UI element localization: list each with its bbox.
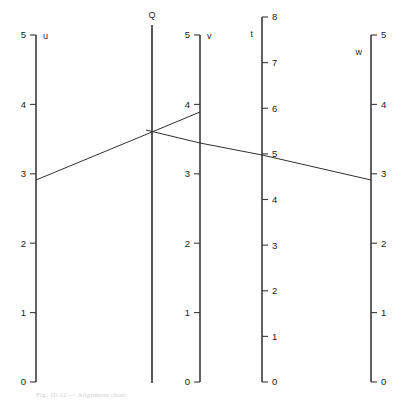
axis-u: 543210u xyxy=(21,29,48,387)
axis-name-u: u xyxy=(43,31,48,41)
axes-group: 543210uQ543210v876543210t543210w xyxy=(21,10,387,387)
nomogram-canvas: 543210uQ543210v876543210t543210w xyxy=(0,0,407,405)
isopleth-group xyxy=(36,112,371,180)
tick-label-t-1: 1 xyxy=(272,331,277,342)
figure-caption: Fig. 10.12 — Alignment chart xyxy=(36,391,126,399)
tick-label-u-4: 4 xyxy=(21,99,26,110)
axis-name-Q: Q xyxy=(148,10,155,20)
tick-label-u-3: 3 xyxy=(21,168,26,179)
axis-name-v: v xyxy=(207,31,212,41)
axis-t: 876543210t xyxy=(250,11,277,387)
tick-label-v-3: 3 xyxy=(185,168,190,179)
tick-label-u-1: 1 xyxy=(21,307,26,318)
axis-v: 543210v xyxy=(185,29,212,387)
isopleth-u-Q-v xyxy=(36,112,200,180)
tick-label-w-0: 0 xyxy=(381,376,386,387)
tick-label-t-4: 4 xyxy=(272,194,277,205)
tick-label-t-2: 2 xyxy=(272,285,277,296)
tick-label-w-4: 4 xyxy=(381,99,386,110)
tick-label-t-7: 7 xyxy=(272,57,277,68)
tick-label-u-0: 0 xyxy=(21,376,26,387)
tick-label-v-4: 4 xyxy=(185,99,190,110)
tick-label-v-0: 0 xyxy=(185,376,190,387)
axis-name-w: w xyxy=(355,47,363,57)
tick-label-u-5: 5 xyxy=(21,29,26,40)
tick-label-w-1: 1 xyxy=(381,307,386,318)
axis-name-t: t xyxy=(250,29,253,39)
axis-w: 543210w xyxy=(355,29,387,387)
tick-label-v-1: 1 xyxy=(185,307,190,318)
tick-label-t-8: 8 xyxy=(272,11,277,22)
tick-label-t-3: 3 xyxy=(272,240,277,251)
nomogram-figure: 543210uQ543210v876543210t543210w Fig. 10… xyxy=(0,0,407,405)
axis-Q: Q xyxy=(148,10,155,383)
tick-label-v-2: 2 xyxy=(185,238,190,249)
tick-label-t-0: 0 xyxy=(272,376,277,387)
tick-label-v-5: 5 xyxy=(185,29,190,40)
tick-label-w-5: 5 xyxy=(381,29,386,40)
tick-label-t-6: 6 xyxy=(272,103,277,114)
isopleth-Q-t-w xyxy=(146,130,371,180)
tick-label-w-2: 2 xyxy=(381,238,386,249)
tick-label-u-2: 2 xyxy=(21,238,26,249)
tick-label-w-3: 3 xyxy=(381,168,386,179)
